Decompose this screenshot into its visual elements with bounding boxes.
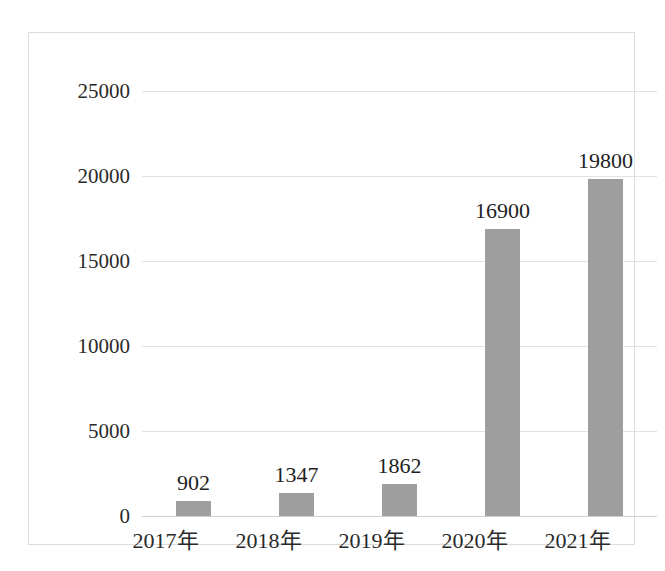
y-tick-label-25000: 25000	[78, 81, 131, 102]
x-tick-label-2019年: 2019年	[339, 530, 405, 552]
chart-screenshot: 0500010000150002000025000 90213471862169…	[0, 0, 665, 571]
x-tick-label-2018年: 2018年	[236, 530, 302, 552]
y-tick-label-10000: 10000	[78, 336, 131, 357]
gridline-0	[142, 516, 657, 517]
x-tick-label-2021年: 2021年	[545, 530, 611, 552]
bar-value-label-2021年: 19800	[578, 150, 633, 172]
bar-value-label-2020年: 16900	[475, 200, 530, 222]
bar-2020年[interactable]	[485, 229, 520, 516]
bars-group: 902134718621690019800	[142, 91, 657, 516]
bar-2017年[interactable]	[176, 501, 211, 516]
y-tick-label-5000: 5000	[88, 421, 130, 442]
x-tick-label-2017年: 2017年	[133, 530, 199, 552]
x-tick-label-2020年: 2020年	[442, 530, 508, 552]
y-tick-label-15000: 15000	[78, 251, 131, 272]
bar-value-label-2017年: 902	[177, 472, 210, 494]
bar-value-label-2019年: 1862	[378, 455, 422, 477]
bar-2021年[interactable]	[588, 179, 623, 516]
y-tick-label-20000: 20000	[78, 166, 131, 187]
chart-frame: 0500010000150002000025000 90213471862169…	[28, 32, 635, 545]
bar-value-label-2018年: 1347	[275, 464, 319, 486]
bar-2019年[interactable]	[382, 484, 417, 516]
bar-2018年[interactable]	[279, 493, 314, 516]
y-tick-label-0: 0	[120, 506, 131, 527]
